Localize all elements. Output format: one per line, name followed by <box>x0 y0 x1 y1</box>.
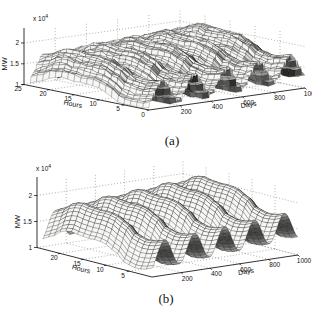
x-axis-label: Days <box>240 100 257 110</box>
z-scale-label: x 104 <box>33 13 48 22</box>
x-tick-label: 1000 <box>304 90 312 97</box>
z-tick-label: 1.5 <box>10 60 19 67</box>
caption-a: (a) <box>155 133 189 149</box>
y-axis-label: Hours <box>71 263 91 275</box>
z-tick-label: 1 <box>15 81 19 88</box>
x-tick-label: 400 <box>211 270 222 277</box>
z-tick-label: 2 <box>15 39 19 46</box>
x-axis-label: Days <box>238 267 255 277</box>
z-tick-label: 2 <box>28 192 32 199</box>
x-tick-label: 200 <box>181 108 192 115</box>
plot-b-surface <box>43 176 298 269</box>
x-tick-label: 1000 <box>297 257 312 264</box>
y-tick-label: 5 <box>121 272 125 279</box>
z-axis-label: MW <box>13 214 22 228</box>
x-tick-label: 800 <box>274 94 285 101</box>
y-tick-label: 5 <box>116 105 120 112</box>
surface-plots: 2004006008001000252015105021.51DaysHours… <box>0 0 312 323</box>
figure: 2004006008001000252015105021.51DaysHours… <box>0 0 312 323</box>
y-tick-label: 20 <box>50 254 58 261</box>
y-tick-label: 0 <box>141 111 145 118</box>
x-tick-label: 800 <box>269 261 280 268</box>
x-tick-label: 200 <box>182 275 193 282</box>
z-axis-label: MW <box>0 56 9 70</box>
z-scale-label: x 104 <box>36 163 51 172</box>
y-tick-label: 10 <box>96 266 104 273</box>
x-tick-label: 400 <box>212 103 223 110</box>
z-tick-label: 1.5 <box>23 218 32 225</box>
y-tick-label: 20 <box>39 90 47 97</box>
caption-b: (b) <box>149 291 183 307</box>
z-tick-label: 1 <box>28 244 32 251</box>
y-axis-label: Hours <box>63 99 83 110</box>
y-tick-label: 10 <box>89 100 97 107</box>
